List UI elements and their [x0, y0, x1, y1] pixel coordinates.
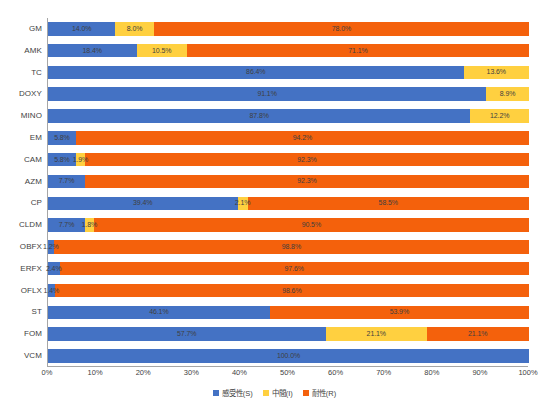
chart-title: [0, 0, 549, 9]
bar-row: 2.4%97.6%: [48, 258, 529, 280]
y-axis-label-st: ST: [0, 307, 42, 317]
bar-value-label: 1.9%: [73, 156, 89, 164]
bar-segment-r: 92.3%: [85, 153, 529, 167]
bar-row: 18.4%10.5%71.1%: [48, 40, 529, 62]
bar-value-label: 5.8%: [54, 156, 70, 164]
bar-track: 87.8%12.2%: [48, 109, 529, 123]
y-axis-label-cldm: CLDM: [0, 220, 42, 230]
y-axis-category-labels: GMAMKTCDOXYMINOEMCAMAZMCPCLDMOBFXERFXOFL…: [0, 18, 47, 367]
bar-segment-i: 10.5%: [137, 44, 188, 58]
bar-track: 7.7%1.8%90.5%: [48, 218, 529, 232]
bar-segment-s: 1.4%: [48, 284, 55, 298]
x-axis-tick: 90%: [472, 368, 487, 378]
x-axis-tick: 70%: [376, 368, 391, 378]
bar-row: 1.2%98.8%: [48, 236, 529, 258]
legend-item[interactable]: 耐性(R): [303, 389, 336, 398]
x-axis-tick: 60%: [328, 368, 343, 378]
chart-legend: 感受性(S)中間(I)耐性(R): [0, 387, 549, 399]
y-axis-label-tc: TC: [0, 68, 42, 78]
x-axis-tick: 80%: [424, 368, 439, 378]
bar-segment-r: 98.6%: [55, 284, 529, 298]
bar-value-label: 5.8%: [54, 134, 70, 142]
bar-track: 1.2%98.8%: [48, 240, 529, 254]
bar-track: 91.1%8.9%: [48, 87, 529, 101]
legend-label: 耐性(R): [312, 389, 336, 398]
bar-row: 1.4%98.6%: [48, 280, 529, 302]
bar-value-label: 12.2%: [490, 112, 509, 120]
y-axis-label-erfx: ERFX: [0, 264, 42, 274]
bar-value-label: 87.8%: [249, 112, 268, 120]
bar-segment-s: 7.7%: [48, 218, 85, 232]
bar-value-label: 92.3%: [297, 156, 316, 164]
bar-value-label: 90.5%: [302, 221, 321, 229]
y-axis-label-oflx: OFLX: [0, 286, 42, 296]
bar-track: 57.7%21.1%21.1%: [48, 327, 529, 341]
y-axis-label-azm: AZM: [0, 177, 42, 187]
bar-row: 7.7%1.8%90.5%: [48, 214, 529, 236]
legend-item[interactable]: 中間(I): [263, 389, 293, 398]
y-axis-label-amk: AMK: [0, 46, 42, 56]
bar-segment-r: 21.1%: [427, 327, 528, 341]
bar-segment-i: 2.1%: [238, 197, 248, 211]
bar-segment-r: 90.5%: [94, 218, 529, 232]
bar-value-label: 2.1%: [235, 199, 251, 207]
y-axis-label-em: EM: [0, 133, 42, 143]
bar-value-label: 78.0%: [332, 25, 351, 33]
bar-value-label: 100.0%: [277, 352, 300, 360]
legend-item[interactable]: 感受性(S): [213, 389, 253, 398]
legend-label: 感受性(S): [222, 389, 253, 398]
bar-track: 2.4%97.6%: [48, 262, 529, 276]
bar-value-label: 91.1%: [257, 90, 276, 98]
bar-value-label: 46.1%: [149, 308, 168, 316]
bar-value-label: 1.8%: [82, 221, 98, 229]
bar-segment-r: 71.1%: [187, 44, 529, 58]
bar-value-label: 10.5%: [152, 47, 171, 55]
bar-value-label: 18.4%: [83, 47, 102, 55]
bar-track: 1.4%98.6%: [48, 284, 529, 298]
x-axis-tick: 40%: [232, 368, 247, 378]
bar-value-label: 39.4%: [133, 199, 152, 207]
legend-swatch-icon: [263, 390, 269, 396]
bar-value-label: 98.8%: [282, 243, 301, 251]
bar-segment-r: 78.0%: [154, 22, 529, 36]
bar-value-label: 7.7%: [59, 221, 75, 229]
bar-value-label: 71.1%: [348, 47, 367, 55]
bar-segment-i: 1.9%: [76, 153, 85, 167]
bar-segment-r: 97.6%: [60, 262, 529, 276]
bar-value-label: 58.5%: [379, 199, 398, 207]
x-axis-tick: 0%: [42, 368, 53, 378]
bar-value-label: 53.9%: [390, 308, 409, 316]
x-axis-tick: 20%: [136, 368, 151, 378]
x-axis-tick: 50%: [280, 368, 295, 378]
bar-segment-r: 53.9%: [270, 306, 529, 320]
bar-row: 5.8%1.9%92.3%: [48, 149, 529, 171]
bar-segment-r: 98.8%: [54, 240, 529, 254]
bar-value-label: 8.9%: [500, 90, 516, 98]
bar-row: 5.8%94.2%: [48, 127, 529, 149]
stacked-bar-chart: GMAMKTCDOXYMINOEMCAMAZMCPCLDMOBFXERFXOFL…: [0, 0, 549, 405]
y-axis-label-fom: FOM: [0, 329, 42, 339]
legend-swatch-icon: [213, 390, 219, 396]
bar-value-label: 2.4%: [46, 265, 62, 273]
bar-row: 100.0%: [48, 345, 529, 367]
bar-value-label: 94.2%: [293, 134, 312, 142]
y-axis-label-vcm: VCM: [0, 351, 42, 361]
bar-segment-i: 12.2%: [470, 109, 529, 123]
bar-segment-r: 94.2%: [76, 131, 529, 145]
bar-segment-r: 58.5%: [248, 197, 529, 211]
bar-row: 39.4%2.1%58.5%: [48, 193, 529, 215]
bar-row: 7.7%92.3%: [48, 171, 529, 193]
x-axis-tick: 30%: [184, 368, 199, 378]
bar-segment-s: 14.0%: [48, 22, 115, 36]
bar-segment-s: 87.8%: [48, 109, 470, 123]
y-axis-label-obfx: OBFX: [0, 242, 42, 252]
bar-track: 86.4%13.6%: [48, 66, 529, 80]
bar-value-label: 13.6%: [487, 68, 506, 76]
y-axis-label-cam: CAM: [0, 155, 42, 165]
y-axis-label-gm: GM: [0, 24, 42, 34]
bar-value-label: 21.1%: [367, 330, 386, 338]
bar-segment-s: 7.7%: [48, 175, 85, 189]
bar-segment-i: 21.1%: [326, 327, 427, 341]
bar-segment-i: 8.9%: [486, 87, 529, 101]
bar-row: 14.0%8.0%78.0%: [48, 18, 529, 40]
